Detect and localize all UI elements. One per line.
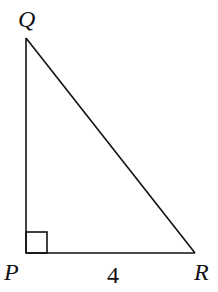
triangle-diagram: Q P R 4 bbox=[0, 0, 218, 292]
vertex-label-p: P bbox=[3, 259, 19, 285]
side-label-pr: 4 bbox=[107, 262, 119, 288]
vertex-label-q: Q bbox=[18, 6, 35, 32]
right-angle-marker bbox=[26, 232, 47, 253]
side-qr bbox=[26, 38, 195, 253]
vertex-label-r: R bbox=[193, 259, 209, 285]
